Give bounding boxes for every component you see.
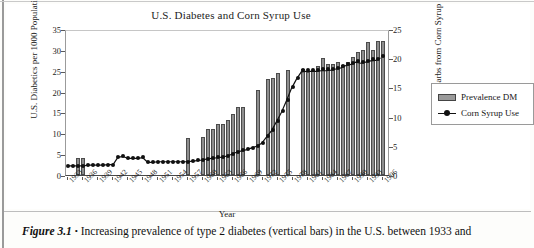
y-axis-tick-mark	[61, 134, 65, 135]
y-axis-tick-mark	[389, 118, 393, 119]
x-axis-tick-mark	[367, 177, 368, 180]
data-point	[291, 85, 295, 89]
x-axis-tick-mark	[217, 177, 218, 180]
data-point	[211, 156, 215, 160]
data-point	[356, 59, 360, 63]
data-point	[226, 154, 230, 158]
y-axis-tick-label: 10	[393, 113, 402, 123]
chart-legend: Prevalence DM Corn Syrup Use	[431, 83, 534, 125]
y-axis-tick-label: 30	[53, 46, 62, 56]
x-axis-tick-mark	[337, 177, 338, 180]
data-point	[201, 158, 205, 162]
data-point	[186, 160, 190, 164]
x-axis-tick-mark	[157, 177, 158, 180]
data-point	[141, 155, 145, 159]
data-point	[346, 62, 350, 66]
data-point	[361, 60, 365, 64]
chart-title: U.S. Diabetes and Corn Syrup Use	[66, 9, 396, 21]
data-point	[271, 128, 275, 132]
data-point	[376, 57, 380, 61]
x-axis-tick-mark	[97, 177, 98, 180]
data-point	[86, 163, 90, 167]
x-axis-tick-mark	[202, 177, 203, 180]
data-point	[321, 67, 325, 71]
data-point	[171, 160, 175, 164]
x-axis-tick-mark	[277, 177, 278, 180]
data-point	[351, 61, 355, 65]
data-point	[251, 146, 255, 150]
data-point	[126, 156, 130, 160]
data-point	[101, 163, 105, 167]
y-axis-left-ticks: 05101520253035	[39, 30, 61, 176]
y-axis-tick-label: 35	[53, 25, 62, 35]
y-axis-tick-label: 15	[393, 83, 402, 93]
data-point	[276, 119, 280, 123]
data-point	[96, 163, 100, 167]
y-axis-tick-mark	[61, 30, 65, 31]
data-point	[296, 76, 300, 80]
data-point	[181, 160, 185, 164]
x-axis-tick-mark	[187, 177, 188, 180]
data-point	[316, 68, 320, 72]
y-axis-tick-mark	[389, 147, 393, 148]
figure-caption-text: Increasing prevalence of type 2 diabetes…	[81, 225, 472, 237]
x-axis-tick-mark	[307, 177, 308, 180]
data-point	[241, 148, 245, 152]
data-point	[381, 54, 385, 58]
y-axis-tick-label: 25	[393, 25, 402, 35]
y-axis-tick-label: 20	[53, 88, 62, 98]
y-axis-tick-label: 15	[53, 108, 62, 118]
data-point	[331, 67, 335, 71]
data-point	[216, 155, 220, 159]
y-axis-right-ticks: 0510152025	[393, 30, 413, 176]
x-axis-label: Year	[65, 209, 389, 219]
page-top-rule	[0, 1, 534, 2]
x-axis-tick-mark	[262, 177, 263, 180]
data-point	[286, 98, 290, 102]
data-point	[281, 109, 285, 113]
x-axis-tick-mark	[142, 177, 143, 180]
x-axis-tick-mark	[247, 177, 248, 180]
data-point	[256, 144, 260, 148]
y-axis-tick-label: 25	[53, 67, 62, 77]
data-point	[311, 68, 315, 72]
x-axis-tick-mark	[382, 177, 383, 180]
data-point	[206, 157, 210, 161]
data-point	[151, 160, 155, 164]
plot-area	[65, 30, 389, 176]
y-axis-tick-mark	[61, 51, 65, 52]
data-point	[81, 164, 85, 168]
x-axis-tick-mark	[322, 177, 323, 180]
x-axis-tick-mark	[67, 177, 68, 180]
figure-panel: U.S. Diabetes and Corn Syrup Use U.S. Di…	[6, 4, 530, 209]
data-point	[336, 66, 340, 70]
legend-item-prevalence-dm: Prevalence DM	[438, 89, 533, 105]
x-axis-tick-mark	[82, 177, 83, 180]
line-markers-corn-syrup-use	[66, 31, 388, 175]
data-point	[71, 164, 75, 168]
legend-label-corn-syrup-use: Corn Syrup Use	[461, 108, 519, 118]
y-axis-tick-label: 5	[393, 142, 397, 152]
data-point	[196, 158, 200, 162]
x-axis-tick-mark	[232, 177, 233, 180]
data-point	[131, 156, 135, 160]
x-axis-tick-mark	[112, 177, 113, 180]
data-point	[161, 160, 165, 164]
data-point	[121, 154, 125, 158]
y-axis-tick-mark	[389, 176, 393, 177]
y-axis-tick-mark	[61, 176, 65, 177]
y-axis-left-label: U.S. Diabetics per 1000 Population	[29, 0, 39, 135]
data-point	[326, 67, 330, 71]
data-point	[221, 155, 225, 159]
data-point	[301, 68, 305, 72]
x-axis-tick-mark	[172, 177, 173, 180]
x-axis-tick-labels: 1933193619391942194519481951195419571960…	[65, 178, 389, 210]
y-axis-tick-mark	[389, 88, 393, 89]
figure-page: U.S. Diabetes and Corn Syrup Use U.S. Di…	[0, 0, 534, 248]
data-point	[261, 141, 265, 145]
data-point	[176, 160, 180, 164]
y-axis-tick-mark	[61, 72, 65, 73]
data-point	[371, 57, 375, 61]
x-axis-tick-mark	[292, 177, 293, 180]
x-axis-tick-mark	[127, 177, 128, 180]
